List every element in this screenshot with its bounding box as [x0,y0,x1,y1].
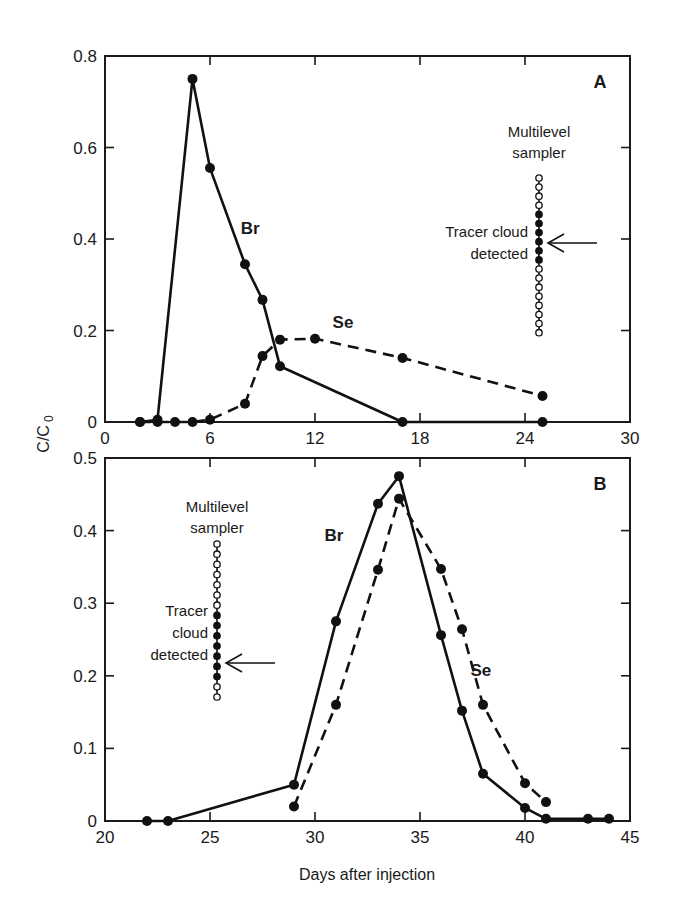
sampler-title-line2: sampler [190,519,243,536]
sampler-port-open [214,551,220,557]
data-point-se [310,334,320,344]
series-label-se: Se [471,661,492,680]
sampler-port-open [536,202,542,208]
data-point-se [541,797,551,807]
series-label-br: Br [324,526,343,545]
sampler-port-open [536,311,542,317]
data-point-br [188,74,198,84]
sampler-port-open [536,330,542,336]
y-tick-label: 0.5 [73,449,97,468]
x-tick-label: 45 [621,828,640,847]
sampler-port-filled [214,663,220,669]
panel-b-plot: 20253035404500.10.20.30.40.5BrSeBMultile… [73,449,639,847]
x-tick-label: 6 [205,429,214,448]
data-point-br [583,814,593,824]
sampler-port-filled [536,257,542,263]
x-tick-label: 35 [411,828,430,847]
sampler-port-open [536,284,542,290]
svg-text:C/C0: C/C0 [35,415,56,453]
y-tick-label: 0.1 [73,739,97,758]
sampler-port-filled [214,643,220,649]
data-point-br [457,706,467,716]
data-point-se [457,624,467,634]
sampler-port-open [214,694,220,700]
chart-svg: 061218243000.20.40.60.8BrSeAMultilevelsa… [0,0,675,913]
data-point-br [258,295,268,305]
data-point-br [541,814,551,824]
data-point-se [258,351,268,361]
data-point-se [153,417,163,427]
data-point-br [398,417,408,427]
series-line-se [140,339,543,422]
sampler-title-line2: sampler [512,144,565,161]
data-point-br [275,361,285,371]
sampler-port-open [536,320,542,326]
sampler-port-open [536,175,542,181]
sampler-title-line1: Multilevel [186,498,249,515]
sampler-port-open [214,602,220,608]
sampler-port-open [536,266,542,272]
tracer-detected-label: Tracer cloud [445,223,528,240]
sampler-port-filled [214,673,220,679]
y-tick-label: 0 [88,812,97,831]
data-point-se [188,417,198,427]
data-point-br [205,163,215,173]
tracer-detected-label: detected [150,646,208,663]
data-point-se [538,391,548,401]
sampler-port-open [536,275,542,281]
y-tick-label: 0.3 [73,594,97,613]
figure: 061218243000.20.40.60.8BrSeAMultilevelsa… [0,0,675,913]
data-point-br [394,471,404,481]
sampler-port-filled [214,653,220,659]
data-point-se [205,415,215,425]
data-point-br [478,769,488,779]
data-point-br [331,616,341,626]
panel-letter: B [594,474,607,494]
y-axis-title-subscript: 0 [42,415,56,422]
data-point-br [289,780,299,790]
data-point-se [331,700,341,710]
sampler-port-open [536,293,542,299]
series-label-br: Br [241,219,260,238]
y-tick-label: 0.8 [73,47,97,66]
data-point-se [373,565,383,575]
sampler-port-filled [214,622,220,628]
x-tick-label: 30 [306,828,325,847]
y-axis-title: C/C0 [35,415,56,453]
x-tick-label: 24 [516,429,535,448]
sampler-port-open [536,184,542,190]
panel-letter: A [594,72,607,92]
data-point-se [394,494,404,504]
data-point-br [538,417,548,427]
sampler-port-filled [214,633,220,639]
sampler-port-filled [536,220,542,226]
data-point-br [240,259,250,269]
data-point-se [436,564,446,574]
sampler-port-open [536,302,542,308]
x-tick-label: 40 [516,828,535,847]
sampler-port-filled [536,229,542,235]
data-point-br [604,814,614,824]
data-point-se [135,417,145,427]
tracer-detected-label: Tracer [165,602,208,619]
sampler-title-line1: Multilevel [508,123,571,140]
data-point-se [170,417,180,427]
y-tick-label: 0.6 [73,139,97,158]
tracer-detected-label: detected [470,245,528,262]
data-point-se [240,399,250,409]
y-tick-label: 0.4 [73,522,97,541]
x-tick-label: 18 [411,429,430,448]
x-tick-label: 25 [201,828,220,847]
plot-frame [105,56,630,422]
sampler-port-open [214,561,220,567]
data-point-br [520,803,530,813]
y-tick-label: 0.4 [73,230,97,249]
data-point-se [275,335,285,345]
panel-a-plot: 061218243000.20.40.60.8BrSeAMultilevelsa… [73,47,639,448]
sampler-port-filled [536,239,542,245]
tracer-detected-label: cloud [172,624,208,641]
sampler-port-open [214,592,220,598]
sampler-port-open [214,541,220,547]
sampler-port-open [214,684,220,690]
x-tick-label: 0 [100,429,109,448]
